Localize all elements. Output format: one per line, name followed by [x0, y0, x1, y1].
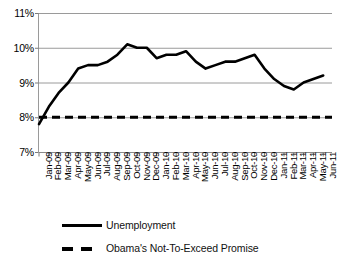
x-axis-tick-label: Oct-10: [248, 152, 258, 179]
x-axis-tick-label: Mar-09: [62, 152, 72, 180]
x-axis-tick-label: Aug-09: [111, 152, 121, 181]
plot-area: 11%10%9%8%7%: [0, 0, 332, 160]
x-axis-tick-label: Jul-10: [219, 152, 229, 176]
x-axis-tick-label: Aug-10: [229, 152, 239, 181]
x-axis-tick-label: Nov-09: [141, 152, 151, 181]
y-axis-tick-label: 11%: [4, 8, 34, 19]
x-axis-tick-label: Apr-11: [307, 152, 317, 178]
x-axis-tick-label: Jan-09: [43, 152, 53, 179]
x-axis-tick-label: May-10: [199, 152, 209, 182]
y-axis-tick-label: 10%: [4, 43, 34, 54]
x-axis-tick-label: Apr-10: [190, 152, 200, 179]
y-axis-tick-marks: [35, 14, 39, 153]
x-axis-tick-label: Jun-11: [327, 152, 337, 179]
gridlines: [39, 14, 333, 118]
legend-label-unemployment: Unemployment: [102, 220, 175, 231]
plot-svg: [0, 0, 332, 160]
x-axis-labels: Jan-09Feb-09Mar-09Apr-09May-09Jun-09Jul-…: [0, 152, 332, 214]
x-axis-tick-label: May-11: [317, 152, 327, 181]
legend-dashed-line-icon: [62, 242, 102, 254]
x-axis-tick-label: Jul-09: [101, 152, 111, 176]
x-axis-tick-label: Feb-10: [170, 152, 180, 180]
x-axis-tick-label: May-09: [82, 152, 92, 182]
y-axis-tick-label: 8%: [4, 112, 34, 123]
x-axis-tick-label: Jan-11: [278, 152, 288, 179]
x-axis-tick-label: Feb-09: [52, 152, 62, 180]
x-axis-tick-label: Feb-11: [288, 152, 298, 180]
x-axis-tick-label: Mar-10: [180, 152, 190, 180]
unemployment-series-line: [39, 44, 323, 124]
legend-solid-line-icon: [62, 219, 102, 231]
x-axis-tick-label: Nov-10: [258, 152, 268, 181]
legend-item-promise: Obama's Not-To-Exceed Promise: [62, 241, 259, 255]
legend-label-promise: Obama's Not-To-Exceed Promise: [102, 243, 259, 254]
x-axis-tick-label: Mar-11: [297, 152, 307, 180]
x-axis-tick-label: Dec-10: [268, 152, 278, 181]
x-axis-tick-label: Oct-09: [131, 152, 141, 179]
x-axis-tick-label: Dec-09: [150, 152, 160, 181]
y-axis-tick-label: 9%: [4, 78, 34, 89]
chart-legend: Unemployment Obama's Not-To-Exceed Promi…: [0, 214, 332, 264]
x-axis-tick-label: Sep-10: [239, 152, 249, 181]
x-axis-tick-label: Jun-10: [209, 152, 219, 179]
x-axis-tick-label: Jun-09: [92, 152, 102, 179]
x-axis-tick-label: Sep-09: [121, 152, 131, 181]
x-axis-tick-label: Jan-10: [160, 152, 170, 179]
legend-item-unemployment: Unemployment: [62, 218, 175, 232]
x-axis-tick-label: Apr-09: [72, 152, 82, 179]
y-axis-labels: 11%10%9%8%7%: [0, 0, 34, 160]
